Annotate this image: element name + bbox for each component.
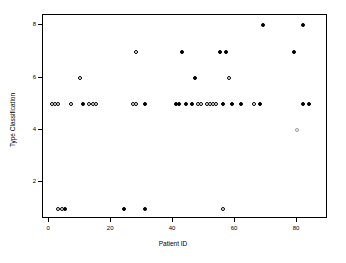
x-axis-tick bbox=[296, 218, 297, 222]
data-point bbox=[252, 102, 256, 106]
data-point bbox=[69, 102, 73, 106]
data-points-layer bbox=[43, 15, 326, 217]
data-point bbox=[227, 76, 231, 80]
data-point bbox=[258, 102, 262, 106]
data-point bbox=[122, 207, 126, 211]
x-axis-tick bbox=[110, 218, 111, 222]
data-point bbox=[301, 102, 305, 106]
y-axis-tick bbox=[38, 129, 42, 130]
x-axis-tick bbox=[48, 218, 49, 222]
scatter-plot-figure: 020406080 2468 Patient ID Type Classific… bbox=[0, 0, 346, 263]
data-point bbox=[261, 23, 265, 27]
data-point bbox=[94, 102, 98, 106]
data-point bbox=[134, 102, 138, 106]
data-point bbox=[78, 76, 82, 80]
data-point bbox=[230, 102, 234, 106]
y-axis-tick-label: 2 bbox=[26, 178, 36, 184]
y-axis-tick bbox=[38, 24, 42, 25]
y-axis-tick-label: 6 bbox=[26, 74, 36, 80]
data-point bbox=[221, 102, 225, 106]
data-point bbox=[190, 102, 194, 106]
data-point bbox=[295, 128, 299, 132]
y-axis-tick-label: 4 bbox=[26, 126, 36, 132]
data-point bbox=[224, 50, 228, 54]
data-point bbox=[143, 102, 147, 106]
data-point bbox=[214, 102, 218, 106]
data-point bbox=[218, 50, 222, 54]
data-point bbox=[301, 23, 305, 27]
data-point bbox=[81, 102, 85, 106]
x-axis-tick-label: 40 bbox=[169, 225, 176, 231]
data-point bbox=[307, 102, 311, 106]
data-point bbox=[177, 102, 181, 106]
x-axis-title: Patient ID bbox=[0, 240, 346, 248]
data-point bbox=[199, 102, 203, 106]
data-point bbox=[143, 207, 147, 211]
x-axis-tick-label: 80 bbox=[293, 225, 300, 231]
y-axis-tick-label: 8 bbox=[26, 21, 36, 27]
x-axis-tick bbox=[172, 218, 173, 222]
x-axis-tick-label: 60 bbox=[231, 225, 238, 231]
data-point bbox=[60, 207, 64, 211]
x-axis-tick-label: 20 bbox=[107, 225, 114, 231]
data-point bbox=[292, 50, 296, 54]
data-point bbox=[184, 102, 188, 106]
y-axis-tick bbox=[38, 77, 42, 78]
x-axis-tick bbox=[234, 218, 235, 222]
data-point bbox=[56, 102, 60, 106]
data-point bbox=[134, 50, 138, 54]
x-axis-tick-label: 0 bbox=[47, 225, 50, 231]
data-point bbox=[193, 76, 197, 80]
y-axis-tick bbox=[38, 181, 42, 182]
plot-panel bbox=[42, 14, 327, 218]
y-axis-title: Type Classification bbox=[9, 80, 17, 160]
data-point bbox=[239, 102, 243, 106]
data-point bbox=[180, 50, 184, 54]
data-point bbox=[221, 207, 225, 211]
